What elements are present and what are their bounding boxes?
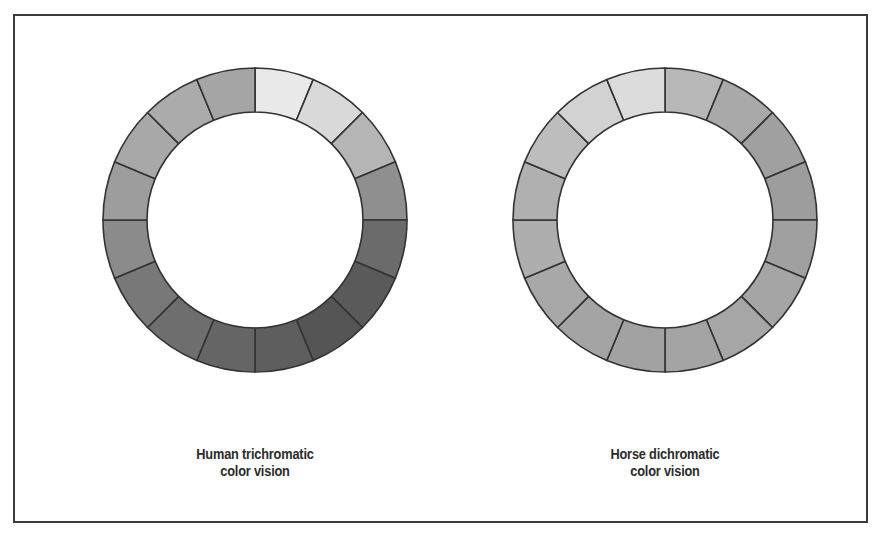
- human-caption-line-1: Human trichromatic: [79, 446, 431, 463]
- color-vision-comparison-figure: Human trichromatic color vision Horse di…: [0, 0, 884, 538]
- horse-caption-line-1: Horse dichromatic: [489, 446, 841, 463]
- horse-caption: Horse dichromatic color vision: [489, 446, 841, 480]
- horse-dichromatic-color-wheel: [507, 62, 823, 378]
- horse-vision-panel: Horse dichromatic color vision: [465, 16, 865, 521]
- human-caption: Human trichromatic color vision: [79, 446, 431, 480]
- human-caption-line-2: color vision: [79, 463, 431, 480]
- human-trichromatic-color-wheel: [97, 62, 413, 378]
- horse-caption-line-2: color vision: [489, 463, 841, 480]
- figure-frame: Human trichromatic color vision Horse di…: [13, 14, 868, 523]
- human-vision-panel: Human trichromatic color vision: [55, 16, 455, 521]
